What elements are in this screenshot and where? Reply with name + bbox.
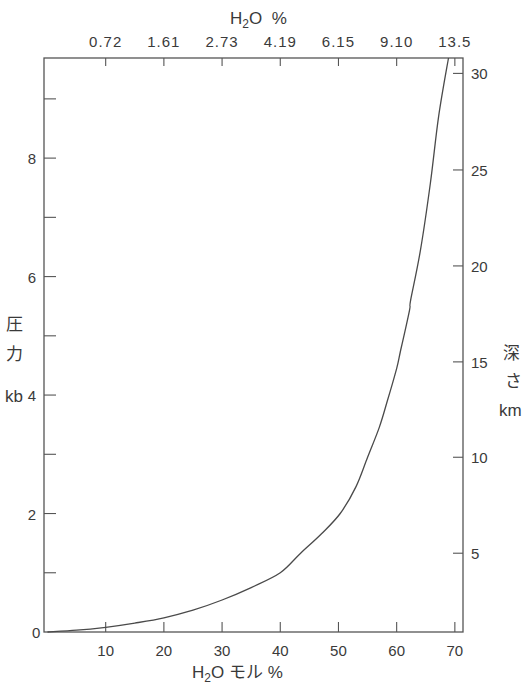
x-tick-label: 10 bbox=[97, 642, 114, 659]
y-axis-unit-right: km bbox=[499, 401, 522, 420]
top-axis-title: H2O % bbox=[230, 9, 287, 31]
x-zero-tick-label: 0 bbox=[32, 624, 40, 641]
depth-tick-label: 30 bbox=[471, 65, 488, 82]
x-tick-label: 40 bbox=[272, 642, 289, 659]
top-tick-label: 2.73 bbox=[205, 33, 238, 50]
y-axis-title-left-line2: 力 bbox=[6, 345, 23, 364]
series-group bbox=[48, 58, 449, 632]
x-tick-label: 50 bbox=[330, 642, 347, 659]
depth-tick-label: 5 bbox=[471, 545, 479, 562]
top-tick-label: 13.5 bbox=[438, 33, 471, 50]
x-tick-label: 30 bbox=[214, 642, 231, 659]
depth-tick-label: 25 bbox=[471, 162, 488, 179]
top-axis-ticks: 0.721.612.734.196.159.1013.5 bbox=[89, 33, 471, 66]
y-tick-label: 8 bbox=[28, 150, 36, 167]
depth-tick-label: 20 bbox=[471, 258, 488, 275]
x-tick-label: 70 bbox=[447, 642, 464, 659]
y-axis-unit-left: kb bbox=[5, 387, 23, 406]
series-line bbox=[48, 58, 449, 632]
top-tick-label: 1.61 bbox=[147, 33, 180, 50]
y-tick-label: 2 bbox=[28, 506, 36, 523]
depth-tick-label: 10 bbox=[471, 449, 488, 466]
y-axis-title-left-line1: 圧 bbox=[6, 315, 23, 334]
top-tick-label: 9.10 bbox=[380, 33, 413, 50]
top-tick-label: 6.15 bbox=[322, 33, 355, 50]
y-tick-label: 4 bbox=[28, 387, 36, 404]
depth-axis-ticks: 51015202530 bbox=[453, 65, 488, 562]
y-axis-title-right-line2: さ bbox=[505, 372, 522, 391]
x-axis-title: H2O モル % bbox=[192, 663, 283, 685]
top-tick-label: 0.72 bbox=[89, 33, 122, 50]
depth-tick-label: 15 bbox=[471, 354, 488, 371]
y-axis-ticks: 2468 bbox=[28, 99, 56, 573]
x-axis-ticks: 10203040506070 bbox=[97, 622, 463, 659]
chart: H2O % H2O モル % 圧 力 kb 深 さ km 10203040506… bbox=[0, 0, 531, 688]
y-tick-label: 6 bbox=[28, 269, 36, 286]
x-tick-label: 60 bbox=[388, 642, 405, 659]
x-tick-label: 20 bbox=[156, 642, 173, 659]
plot-frame bbox=[44, 58, 463, 632]
top-tick-label: 4.19 bbox=[264, 33, 297, 50]
y-axis-title-right-line1: 深 bbox=[503, 344, 520, 363]
